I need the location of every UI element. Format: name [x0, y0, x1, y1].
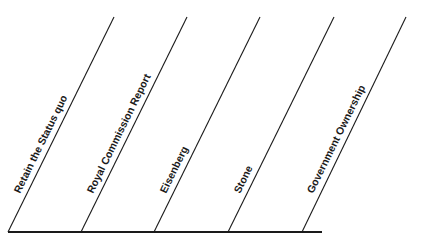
- spoke-royal-commission-report: Royal Commission Report: [81, 17, 187, 232]
- spoke-label: Retain the Status quo: [11, 93, 69, 195]
- spoke-retain-status-quo: Retain the Status quo: [8, 17, 114, 232]
- spoke-label: Stone: [231, 163, 255, 195]
- spoke-line: [81, 17, 187, 232]
- spoke-label: Royal Commission Report: [84, 71, 153, 195]
- continuum-diagram: Retain the Status quo Royal Commission R…: [0, 0, 425, 247]
- spoke-label: Government Ownership: [304, 83, 367, 195]
- spoke-line: [8, 17, 114, 232]
